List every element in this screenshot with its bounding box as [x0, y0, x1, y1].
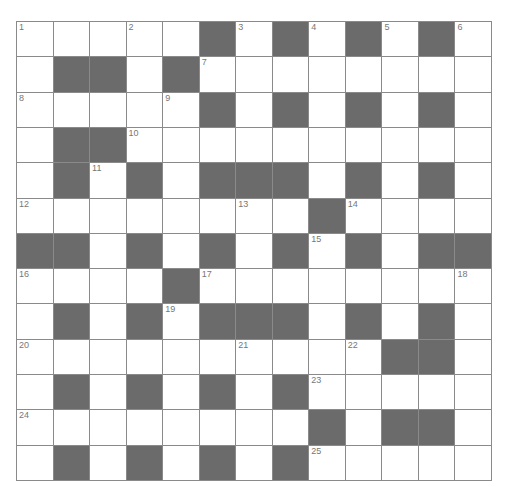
answer-cell[interactable]	[346, 269, 382, 303]
answer-cell[interactable]	[236, 128, 272, 162]
answer-cell[interactable]	[382, 57, 418, 91]
answer-cell[interactable]: 8	[17, 93, 53, 127]
answer-cell[interactable]: 18	[455, 269, 491, 303]
answer-cell[interactable]	[90, 269, 126, 303]
answer-cell[interactable]	[17, 375, 53, 409]
answer-cell[interactable]	[419, 375, 455, 409]
answer-cell[interactable]: 3	[236, 22, 272, 56]
answer-cell[interactable]	[163, 446, 199, 480]
answer-cell[interactable]	[163, 163, 199, 197]
answer-cell[interactable]	[455, 199, 491, 233]
answer-cell[interactable]: 19	[163, 304, 199, 338]
answer-cell[interactable]: 4	[309, 22, 345, 56]
answer-cell[interactable]	[163, 128, 199, 162]
answer-cell[interactable]: 14	[346, 199, 382, 233]
answer-cell[interactable]	[127, 199, 163, 233]
answer-cell[interactable]	[455, 410, 491, 444]
answer-cell[interactable]	[419, 446, 455, 480]
answer-cell[interactable]	[90, 304, 126, 338]
answer-cell[interactable]	[236, 410, 272, 444]
answer-cell[interactable]	[54, 22, 90, 56]
answer-cell[interactable]	[455, 375, 491, 409]
answer-cell[interactable]	[346, 128, 382, 162]
answer-cell[interactable]	[455, 93, 491, 127]
answer-cell[interactable]	[419, 57, 455, 91]
answer-cell[interactable]: 16	[17, 269, 53, 303]
answer-cell[interactable]	[236, 93, 272, 127]
answer-cell[interactable]	[309, 269, 345, 303]
answer-cell[interactable]	[346, 57, 382, 91]
answer-cell[interactable]: 23	[309, 375, 345, 409]
answer-cell[interactable]	[382, 199, 418, 233]
answer-cell[interactable]	[455, 304, 491, 338]
answer-cell[interactable]: 12	[17, 199, 53, 233]
answer-cell[interactable]: 13	[236, 199, 272, 233]
answer-cell[interactable]	[455, 57, 491, 91]
answer-cell[interactable]	[382, 234, 418, 268]
answer-cell[interactable]: 2	[127, 22, 163, 56]
answer-cell[interactable]	[200, 410, 236, 444]
answer-cell[interactable]	[309, 57, 345, 91]
answer-cell[interactable]	[163, 410, 199, 444]
answer-cell[interactable]	[54, 340, 90, 374]
answer-cell[interactable]: 10	[127, 128, 163, 162]
answer-cell[interactable]	[273, 128, 309, 162]
answer-cell[interactable]	[90, 22, 126, 56]
answer-cell[interactable]	[273, 199, 309, 233]
answer-cell[interactable]	[309, 304, 345, 338]
answer-cell[interactable]	[17, 304, 53, 338]
answer-cell[interactable]	[309, 163, 345, 197]
answer-cell[interactable]	[200, 128, 236, 162]
answer-cell[interactable]	[90, 234, 126, 268]
answer-cell[interactable]: 25	[309, 446, 345, 480]
answer-cell[interactable]	[90, 410, 126, 444]
answer-cell[interactable]	[200, 199, 236, 233]
answer-cell[interactable]	[382, 304, 418, 338]
answer-cell[interactable]	[236, 446, 272, 480]
answer-cell[interactable]	[236, 57, 272, 91]
answer-cell[interactable]	[90, 93, 126, 127]
answer-cell[interactable]	[236, 269, 272, 303]
answer-cell[interactable]: 11	[90, 163, 126, 197]
answer-cell[interactable]	[17, 446, 53, 480]
answer-cell[interactable]	[127, 93, 163, 127]
answer-cell[interactable]	[54, 199, 90, 233]
answer-cell[interactable]	[455, 163, 491, 197]
answer-cell[interactable]	[236, 234, 272, 268]
answer-cell[interactable]: 9	[163, 93, 199, 127]
answer-cell[interactable]	[90, 340, 126, 374]
answer-cell[interactable]	[309, 340, 345, 374]
answer-cell[interactable]	[309, 128, 345, 162]
answer-cell[interactable]	[127, 410, 163, 444]
answer-cell[interactable]	[419, 199, 455, 233]
answer-cell[interactable]	[273, 269, 309, 303]
answer-cell[interactable]	[455, 340, 491, 374]
answer-cell[interactable]: 17	[200, 269, 236, 303]
answer-cell[interactable]	[200, 340, 236, 374]
answer-cell[interactable]	[382, 446, 418, 480]
answer-cell[interactable]	[163, 375, 199, 409]
answer-cell[interactable]	[163, 199, 199, 233]
answer-cell[interactable]	[163, 234, 199, 268]
answer-cell[interactable]: 6	[455, 22, 491, 56]
answer-cell[interactable]	[455, 128, 491, 162]
answer-cell[interactable]	[90, 375, 126, 409]
answer-cell[interactable]: 22	[346, 340, 382, 374]
answer-cell[interactable]	[54, 269, 90, 303]
answer-cell[interactable]	[346, 410, 382, 444]
answer-cell[interactable]	[346, 375, 382, 409]
answer-cell[interactable]	[273, 410, 309, 444]
answer-cell[interactable]: 7	[200, 57, 236, 91]
answer-cell[interactable]	[236, 375, 272, 409]
answer-cell[interactable]	[419, 128, 455, 162]
answer-cell[interactable]	[127, 340, 163, 374]
answer-cell[interactable]	[382, 128, 418, 162]
answer-cell[interactable]	[54, 93, 90, 127]
answer-cell[interactable]: 20	[17, 340, 53, 374]
answer-cell[interactable]	[127, 57, 163, 91]
answer-cell[interactable]	[273, 340, 309, 374]
answer-cell[interactable]	[309, 93, 345, 127]
answer-cell[interactable]	[382, 163, 418, 197]
answer-cell[interactable]	[273, 57, 309, 91]
answer-cell[interactable]: 5	[382, 22, 418, 56]
